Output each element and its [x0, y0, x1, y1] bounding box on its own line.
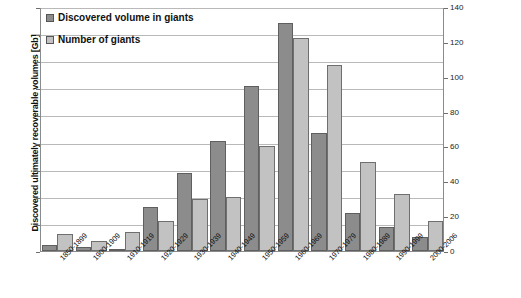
legend-label-number-of-giants: Number of giants — [58, 34, 140, 45]
y-axis-right-tick-label: 100 — [450, 74, 476, 82]
bar-discovered-volume — [278, 23, 293, 251]
legend-label-discovered-volume: Discovered volume in giants — [58, 12, 194, 23]
bar-number-of-giants — [360, 162, 375, 251]
bar-group — [344, 8, 378, 251]
bar-group — [277, 8, 311, 251]
bar-chart: Discovered ultimately recoverable volume… — [0, 0, 521, 298]
y-axis-right-tick-label: 60 — [450, 143, 476, 151]
bar-group — [209, 8, 243, 251]
chart-legend: Discovered volume in giants Number of gi… — [46, 12, 194, 56]
y-axis-right-tick-label: 140 — [450, 4, 476, 12]
y-axis-right-tick-label: 120 — [450, 39, 476, 47]
bar-discovered-volume — [42, 245, 57, 252]
y-axis-left-tickmark — [36, 252, 40, 253]
bar-discovered-volume — [109, 249, 124, 251]
legend-item-number-of-giants: Number of giants — [46, 34, 194, 45]
bar-group — [411, 8, 445, 251]
legend-swatch-dark-icon — [46, 14, 54, 22]
legend-item-discovered-volume: Discovered volume in giants — [46, 12, 194, 23]
legend-swatch-light-icon — [46, 36, 54, 44]
bar-discovered-volume — [244, 86, 259, 251]
bar-group — [378, 8, 412, 251]
y-axis-left-title: Discovered ultimately recoverable volume… — [30, 23, 40, 243]
bar-number-of-giants — [259, 146, 274, 251]
bar-number-of-giants — [293, 38, 308, 251]
bar-number-of-giants — [327, 65, 342, 251]
y-axis-right-tick-label: 80 — [450, 109, 476, 117]
y-axis-right-tick-label: 0 — [450, 248, 476, 256]
y-axis-right-tickmark — [444, 252, 448, 253]
y-axis-right-tick-label: 20 — [450, 213, 476, 221]
bar-group — [243, 8, 277, 251]
bar-group — [310, 8, 344, 251]
y-axis-right-tick-label: 40 — [450, 178, 476, 186]
